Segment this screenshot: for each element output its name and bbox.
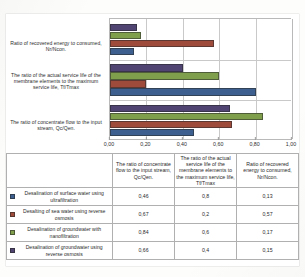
x-axis-tick-mark (255, 137, 256, 140)
gridline-vertical (292, 19, 293, 139)
x-axis-tick-mark (109, 137, 110, 140)
table-cell-value: 0,46 (113, 188, 175, 206)
table-cell-value: 0,6 (175, 224, 237, 242)
x-axis-tick-label: 0,80 (249, 141, 259, 147)
table-cell-value: 0,67 (113, 206, 175, 224)
bar (110, 24, 137, 31)
bar (110, 113, 263, 120)
category-label-concentrate: The ratio of concentrate flow to the inp… (6, 119, 106, 131)
x-axis-tick-label: 0,60 (213, 141, 223, 147)
bar-chart: Ratio of recovered energy to consumed, N… (6, 14, 299, 148)
x-axis-tick-mark (145, 137, 146, 140)
category-label-energy: Ratio of recovered energy to consumed, N… (6, 40, 106, 52)
table-cell-value: 0,8 (175, 188, 237, 206)
bar (110, 48, 134, 55)
data-table: The ratio of concentrate flow to the inp… (6, 153, 299, 260)
table-row: Desalination of groundwater using revers… (7, 242, 299, 260)
legend-swatch-icon (10, 248, 15, 253)
table-row: Desalting of sea water using reverse osm… (7, 206, 299, 224)
legend-row-label: Desalting of sea water using reverse osm… (7, 206, 113, 224)
legend-swatch-icon (10, 212, 15, 217)
legend-swatch-icon (10, 230, 15, 235)
bar (110, 80, 146, 87)
legend-row-label: Desalination of surface water using ultr… (7, 188, 113, 206)
table-cell-value: 0,2 (175, 206, 237, 224)
table-cell-value: 0,84 (113, 224, 175, 242)
legend-series-name: Desalination of groundwater using revers… (17, 244, 111, 256)
x-axis-tick-mark (182, 137, 183, 140)
x-axis-tick-label: 0,40 (177, 141, 187, 147)
x-axis-tick-label: 0,00 (104, 141, 114, 147)
category-axis-labels: Ratio of recovered energy to consumed, N… (6, 14, 109, 140)
gridline-vertical (256, 19, 257, 139)
bar (110, 40, 214, 47)
header-concentrate-ratio: The ratio of concentrate flow to the inp… (113, 154, 175, 188)
table-cell-value: 0,66 (113, 242, 175, 260)
bar (110, 121, 232, 128)
gridline-horizontal (110, 100, 291, 101)
legend-swatch-icon (10, 194, 15, 199)
x-axis-tick-label: 1,00 (286, 141, 296, 147)
chart-sheet: Ratio of recovered energy to consumed, N… (6, 14, 299, 266)
table-body: Desalination of surface water using ultr… (7, 188, 299, 260)
table-cell-value: 0,57 (237, 206, 299, 224)
table-cell-value: 0,17 (237, 224, 299, 242)
table-cell-value: 0,15 (237, 242, 299, 260)
table-cell-value: 0,4 (175, 242, 237, 260)
bar (110, 129, 194, 136)
table-header-row: The ratio of concentrate flow to the inp… (7, 154, 299, 188)
gridline-horizontal (110, 60, 291, 61)
x-axis-tick-label: 0,20 (140, 141, 150, 147)
legend-series-name: Desalination of groundwater with nanofil… (17, 226, 111, 238)
table-row: Desalination of groundwater with nanofil… (7, 224, 299, 242)
category-label-service-life: The ratio of the actual service life of … (6, 72, 106, 90)
bar (110, 64, 183, 71)
legend-series-name: Desalting of sea water using reverse osm… (17, 208, 111, 220)
legend-row-label: Desalination of groundwater using revers… (7, 242, 113, 260)
bar (110, 105, 230, 112)
header-blank (7, 154, 113, 188)
legend-series-name: Desalination of surface water using ultr… (17, 190, 111, 202)
legend-row-label: Desalination of groundwater with nanofil… (7, 224, 113, 242)
bar (110, 88, 256, 95)
plot-area (109, 18, 291, 140)
x-axis-ticks: 0,000,200,400,600,801,00 (109, 141, 291, 151)
header-service-life-ratio: The ratio of the actual service life of … (175, 154, 237, 188)
bar (110, 72, 219, 79)
x-axis-tick-mark (291, 137, 292, 140)
table-cell-value: 0,13 (237, 188, 299, 206)
bar (110, 32, 141, 39)
table-row: Desalination of surface water using ultr… (7, 188, 299, 206)
x-axis-tick-mark (218, 137, 219, 140)
header-energy-ratio: Ratio of recovered energy to consumed, N… (237, 154, 299, 188)
